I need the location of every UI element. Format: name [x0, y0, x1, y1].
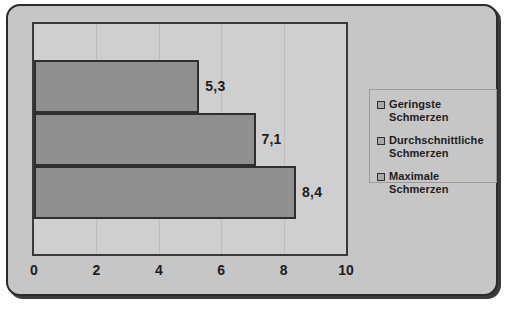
legend-item-label: Durchschnittliche Schmerzen	[389, 134, 492, 160]
x-axis-tick-label: 2	[92, 262, 100, 278]
legend-item-label: Maximale Schmerzen	[389, 170, 492, 196]
legend-item[interactable]: Maximale Schmerzen	[377, 170, 492, 196]
plot-area: 5,37,18,4	[32, 22, 348, 256]
bar[interactable]	[34, 166, 296, 219]
legend-swatch-icon	[377, 101, 385, 109]
legend-item[interactable]: Durchschnittliche Schmerzen	[377, 134, 492, 160]
bar[interactable]	[34, 113, 256, 166]
legend-item-label: Geringste Schmerzen	[389, 98, 492, 124]
bar[interactable]	[34, 60, 199, 113]
bar-value-label: 7,1	[262, 131, 282, 147]
legend-swatch-icon	[377, 137, 385, 145]
x-axis-tick-label: 4	[155, 262, 163, 278]
x-axis: 0246810	[32, 262, 348, 284]
x-axis-tick-label: 8	[280, 262, 288, 278]
bar-value-label: 8,4	[302, 184, 322, 200]
chart-panel: 5,37,18,4 0246810 Geringste SchmerzenDur…	[6, 4, 498, 296]
bars-group: 5,37,18,4	[34, 24, 346, 254]
bar-value-label: 5,3	[205, 78, 225, 94]
x-axis-tick-label: 10	[338, 262, 354, 278]
legend-swatch-icon	[377, 173, 385, 181]
x-axis-tick-label: 6	[217, 262, 225, 278]
chart-legend: Geringste SchmerzenDurchschnittliche Sch…	[369, 89, 497, 183]
legend-item[interactable]: Geringste Schmerzen	[377, 98, 492, 124]
x-axis-tick-label: 0	[30, 262, 38, 278]
